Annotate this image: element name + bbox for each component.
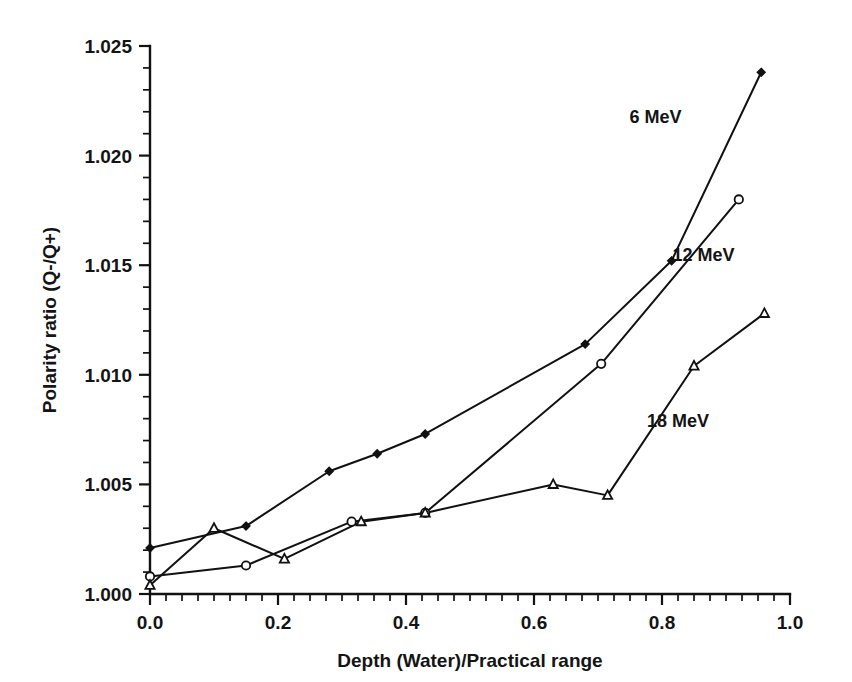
polarity-ratio-line-chart: 1.0001.0051.0101.0151.0201.025 0.00.20.4… — [0, 0, 852, 682]
data-point-marker — [597, 360, 605, 368]
figure-container: 1.0001.0051.0101.0151.0201.025 0.00.20.4… — [0, 0, 852, 682]
data-point-marker — [735, 195, 743, 203]
chart-background — [0, 0, 852, 682]
y-tick-label: 1.025 — [84, 36, 132, 57]
series-label-1: 12 MeV — [673, 245, 735, 265]
series-label-0: 6 MeV — [630, 107, 682, 127]
data-point-marker — [242, 561, 250, 569]
x-tick-label: 0.6 — [521, 612, 547, 633]
y-tick-label: 1.010 — [84, 365, 132, 386]
y-tick-label: 1.020 — [84, 146, 132, 167]
y-tick-label: 1.015 — [84, 255, 132, 276]
x-tick-label: 0.2 — [265, 612, 291, 633]
x-axis-title: Depth (Water)/Practical range — [337, 650, 602, 671]
x-tick-label: 0.4 — [393, 612, 420, 633]
data-point-marker — [347, 517, 355, 525]
series-label-2: 18 MeV — [647, 411, 709, 431]
x-tick-label: 0.8 — [649, 612, 675, 633]
y-axis-title: Polarity ratio (Q-/Q+) — [39, 227, 60, 413]
x-tick-label: 0.0 — [137, 612, 163, 633]
x-tick-label: 1.0 — [777, 612, 803, 633]
y-tick-label: 1.005 — [84, 474, 132, 495]
y-tick-label: 1.000 — [84, 584, 132, 605]
